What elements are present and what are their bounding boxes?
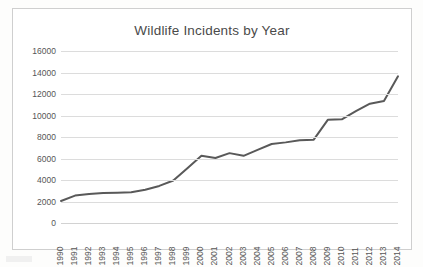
x-axis-tick-label: 2008 <box>308 246 317 265</box>
y-axis-tick-label: 12000 <box>32 89 56 99</box>
y-axis-tick-label: 10000 <box>32 111 56 121</box>
y-axis-tick-label: 16000 <box>32 46 56 56</box>
x-axis-tick-label: 2002 <box>224 246 233 265</box>
gridline <box>61 159 398 160</box>
y-axis-tick-label: 8000 <box>37 132 56 142</box>
x-axis-tick-label: 1995 <box>126 246 135 265</box>
y-axis-tick-label: 4000 <box>37 175 56 185</box>
x-axis-tick-label: 2005 <box>266 246 275 265</box>
gridline <box>61 137 398 138</box>
y-axis-tick-label: 14000 <box>32 68 56 78</box>
x-axis-tick-label: 1993 <box>98 246 107 265</box>
x-axis-tick-label: 1992 <box>84 246 93 265</box>
x-axis-tick-label: 1997 <box>154 246 163 265</box>
chart-container: Wildlife Incidents by Year 0200040006000… <box>12 8 412 250</box>
x-axis-tick-label: 2012 <box>364 246 373 265</box>
y-axis-tick-label: 2000 <box>37 197 56 207</box>
x-axis-tick-label: 2007 <box>294 246 303 265</box>
x-axis-tick-label: 2004 <box>252 246 261 265</box>
x-axis-tick-label: 1990 <box>56 246 65 265</box>
y-axis-tick-label: 6000 <box>37 154 56 164</box>
x-axis-tick-label: 2009 <box>322 246 331 265</box>
y-axis-tick-label: 0 <box>51 218 56 228</box>
x-axis-tick-label: 1998 <box>168 246 177 265</box>
x-axis-tick-label: 1994 <box>112 246 121 265</box>
x-axis-tick-label: 1996 <box>140 246 149 265</box>
gridline <box>61 223 398 224</box>
x-axis-labels: 1990199119921993199419951996199719981999… <box>61 225 398 265</box>
x-axis-tick-label: 2014 <box>393 246 402 265</box>
page-background: Wildlife Incidents by Year 0200040006000… <box>0 0 423 267</box>
gridline <box>61 202 398 203</box>
x-axis-tick-label: 2003 <box>238 246 247 265</box>
gridline <box>61 94 398 95</box>
scan-artifact <box>6 256 32 262</box>
chart-title: Wildlife Incidents by Year <box>13 23 411 38</box>
gridline <box>61 180 398 181</box>
gridline <box>61 73 398 74</box>
gridline <box>61 116 398 117</box>
x-axis-tick-label: 1991 <box>70 246 79 265</box>
x-axis-tick-label: 1999 <box>182 246 191 265</box>
x-axis-tick-label: 2010 <box>336 246 345 265</box>
x-axis-tick-label: 2013 <box>378 246 387 265</box>
x-axis-tick-label: 2011 <box>350 247 359 265</box>
x-axis-tick-label: 2001 <box>210 246 219 265</box>
x-axis-tick-label: 2006 <box>280 246 289 265</box>
gridline <box>61 51 398 52</box>
x-axis-tick-label: 2000 <box>196 246 205 265</box>
plot-area: 0200040006000800010000120001400016000 <box>61 51 398 223</box>
